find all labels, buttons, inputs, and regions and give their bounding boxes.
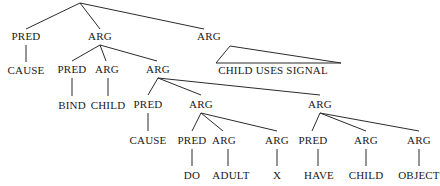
branch-arg7-to-arg8 — [320, 113, 366, 131]
tree-diagram-container: PRED CAUSE ARG PRED BIND ARG CHILD ARG P… — [0, 0, 440, 186]
phrase-child-uses-signal: CHILD USES SIGNAL — [218, 64, 328, 76]
node-object: OBJECT — [398, 169, 440, 181]
node-arg-7: ARG — [308, 98, 332, 110]
arg7-branch-group — [312, 113, 419, 131]
node-pred-4: PRED — [178, 134, 207, 146]
tree-diagram-svg: PRED CAUSE ARG PRED BIND ARG CHILD ARG P… — [0, 0, 440, 186]
branch-arg4-to-pred4 — [192, 113, 201, 131]
node-arg-9: ARG — [407, 134, 431, 146]
node-pred-2: PRED — [58, 63, 87, 75]
node-x: X — [273, 169, 281, 181]
node-cause-1: CAUSE — [7, 64, 44, 76]
node-pred-5: PRED — [299, 134, 328, 146]
node-adult: ADULT — [212, 169, 249, 181]
node-do: DO — [184, 169, 200, 181]
arg1-branch-group — [72, 45, 157, 61]
branch-root-to-argright — [80, 3, 204, 29]
node-arg-6: ARG — [265, 134, 289, 146]
node-arg-4: ARG — [189, 98, 213, 110]
phrase-triangle-icon — [216, 46, 341, 63]
branch-arg7-to-arg9 — [320, 113, 419, 131]
branch-arg1-to-arg2 — [100, 45, 106, 61]
root-branch-group — [26, 3, 204, 29]
arg3-branch-group — [148, 78, 320, 95]
node-pred-1: PRED — [12, 30, 41, 42]
node-arg-8: ARG — [354, 134, 378, 146]
node-arg-top-right: ARG — [197, 30, 221, 42]
branch-arg3-to-pred3 — [148, 78, 158, 95]
node-arg-3: ARG — [146, 63, 170, 75]
node-arg-1: ARG — [88, 30, 112, 42]
branch-arg1-to-pred2 — [72, 45, 100, 61]
node-arg-5: ARG — [212, 134, 236, 146]
node-child-1: CHILD — [91, 99, 126, 111]
branch-arg3-to-arg7 — [158, 78, 320, 95]
node-cause-2: CAUSE — [129, 134, 166, 146]
arg4-branch-group — [192, 113, 277, 131]
node-arg-2: ARG — [95, 63, 119, 75]
node-have: HAVE — [304, 169, 334, 181]
node-pred-3: PRED — [134, 98, 163, 110]
node-child-2: CHILD — [349, 169, 384, 181]
branch-arg7-to-pred5 — [312, 113, 320, 131]
branch-arg1-to-arg3 — [100, 45, 157, 61]
branch-root-to-pred1 — [26, 3, 80, 29]
node-bind: BIND — [58, 99, 86, 111]
